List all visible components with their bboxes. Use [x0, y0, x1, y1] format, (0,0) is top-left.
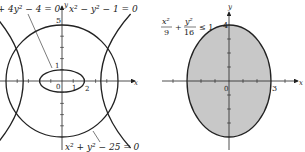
circle-equation-label: x² + y² − 25 = 0 — [65, 142, 140, 152]
left-tick-label-y1: 1 — [55, 62, 59, 70]
inequality-numerator-y: y² — [184, 17, 193, 26]
inequality-relation: ≤ 1 — [199, 23, 213, 32]
right-tick-label-4: 4 — [223, 21, 228, 30]
ellipse-equation-label: x² + 4y² − 4 = 0 — [0, 4, 61, 14]
right-y-axis-label: y — [227, 3, 233, 11]
left-origin-label: 0 — [56, 83, 60, 91]
left-x-axis-label: x — [134, 79, 138, 87]
inequality-numerator-x: x² — [162, 17, 170, 26]
circle-leader-line — [93, 131, 100, 142]
left-tick-label-5: 5 — [56, 16, 61, 25]
left-figure: x² + 4y² − 4 = 0 x² − y² − 1 = 0 x² + y²… — [0, 1, 140, 152]
hyperbola-equation-label: x² − y² − 1 = 0 — [69, 4, 138, 14]
inequality-denominator-16: 16 — [184, 28, 194, 37]
right-tick-label-3: 3 — [272, 84, 277, 93]
left-tick-label-x2: 2 — [85, 85, 89, 93]
inequality-denominator-9: 9 — [164, 28, 169, 37]
right-figure: x² 9 + y² 16 ≤ 1 y x 4 0 3 — [161, 3, 303, 150]
right-origin-label: 0 — [224, 85, 228, 93]
ellipse-leader-line — [28, 14, 52, 68]
inequality-plus: + — [175, 23, 182, 32]
right-x-axis-label: x — [299, 79, 303, 87]
diagram-canvas: x² + 4y² − 4 = 0 x² − y² − 1 = 0 x² + y²… — [0, 0, 305, 152]
left-tick-label-x1: 1 — [72, 84, 76, 92]
